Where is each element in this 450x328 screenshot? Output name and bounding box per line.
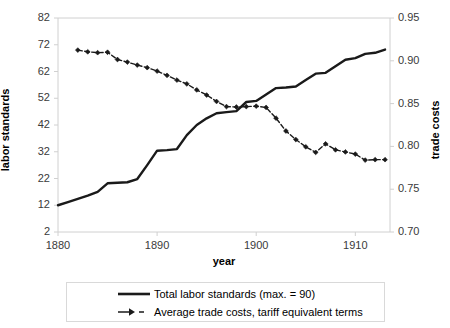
y-axis-left-tick: 62 — [10, 65, 50, 77]
series-marker — [373, 157, 378, 162]
series-marker — [125, 60, 130, 65]
chart-container: labor standards trade costs year 2122232… — [0, 0, 450, 328]
y-axis-left-tick: 32 — [10, 145, 50, 157]
series-marker — [95, 50, 100, 55]
x-axis-tick: 1880 — [28, 239, 88, 251]
y-axis-left-tick: 2 — [10, 225, 50, 237]
y-axis-right-tick: 0.95 — [398, 11, 438, 23]
series-marker — [135, 63, 140, 68]
y-axis-left-tick: 12 — [10, 198, 50, 210]
y-axis-right-tick: 0.80 — [398, 139, 438, 151]
y-axis-left-tick: 72 — [10, 38, 50, 50]
series-marker — [343, 150, 348, 155]
series-line-1 — [78, 50, 385, 160]
series-marker — [175, 78, 180, 83]
x-axis-tick: 1890 — [127, 239, 187, 251]
series-marker — [383, 157, 388, 162]
y-axis-left-tick: 42 — [10, 118, 50, 130]
series-marker — [254, 104, 259, 109]
legend-item-trade-costs: Average trade costs, tariff equivalent t… — [67, 303, 384, 321]
y-axis-right-tick: 0.70 — [398, 225, 438, 237]
series-marker — [145, 65, 150, 70]
y-axis-right-tick: 0.75 — [398, 182, 438, 194]
chart-legend: Total labor standards (max. = 90) Averag… — [66, 282, 385, 322]
y-axis-left-tick: 22 — [10, 172, 50, 184]
legend-label: Average trade costs, tariff equivalent t… — [154, 305, 363, 319]
x-axis-title: year — [213, 255, 236, 267]
legend-label: Total labor standards (max. = 90) — [154, 287, 315, 301]
series-marker — [155, 69, 160, 74]
axis-ticks — [54, 18, 394, 236]
y-axis-left-tick: 82 — [10, 11, 50, 23]
y-axis-left-tick: 52 — [10, 91, 50, 103]
series-marker — [224, 104, 229, 109]
series-marker — [184, 82, 189, 87]
y-axis-right-tick: 0.85 — [398, 97, 438, 109]
series-marker — [165, 73, 170, 78]
y-axis-right-tick: 0.90 — [398, 54, 438, 66]
data-series-group — [58, 48, 387, 206]
series-line-0 — [58, 50, 385, 206]
y-axis-right-title: trade costs — [429, 75, 441, 185]
series-marker — [85, 49, 90, 54]
dashed-marker-line-key-icon — [117, 305, 151, 319]
x-axis-tick: 1910 — [325, 239, 385, 251]
series-marker — [194, 88, 199, 93]
x-axis-tick: 1900 — [226, 239, 286, 251]
chart-plot-area — [0, 0, 450, 328]
legend-item-labor-standards: Total labor standards (max. = 90) — [67, 285, 384, 303]
solid-line-key-icon — [117, 287, 151, 301]
series-marker — [75, 48, 80, 53]
